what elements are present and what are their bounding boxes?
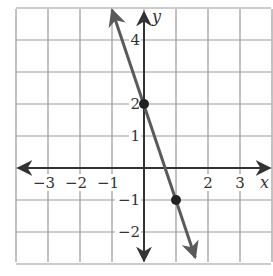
x-tick-label: 3 xyxy=(235,174,245,192)
y-tick-label: −1 xyxy=(118,191,140,209)
x-tick-label: −3 xyxy=(33,174,55,192)
data-point xyxy=(171,195,181,205)
x-tick-label: −2 xyxy=(65,174,87,192)
data-point xyxy=(139,99,149,109)
y-tick-label: 4 xyxy=(130,31,140,49)
y-tick-label: 1 xyxy=(130,127,140,145)
x-tick-label: −1 xyxy=(97,174,119,192)
data-series xyxy=(112,10,195,258)
y-tick-label: 2 xyxy=(130,95,140,113)
x-tick-label: 2 xyxy=(203,174,213,192)
plotted-line xyxy=(112,10,195,258)
y-tick-label: −2 xyxy=(118,223,140,241)
y-axis-label: y xyxy=(151,7,162,26)
x-axis-label: x xyxy=(260,173,269,192)
coordinate-plane: −3−2−123421−1−2 x y xyxy=(0,0,273,276)
